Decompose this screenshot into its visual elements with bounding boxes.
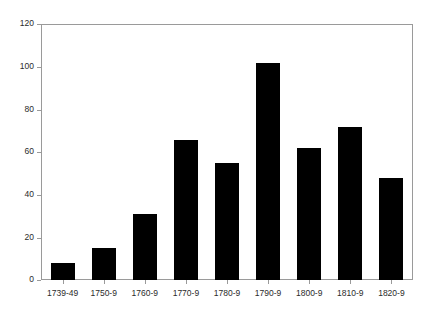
x-axis-tick-label: 1750-9 [90,288,116,298]
bar [51,263,75,280]
bar [338,127,362,280]
bar [297,148,321,280]
y-axis-tick-label: 120 [20,18,34,28]
y-axis: 120 100 80 60 40 20 0 [0,24,41,281]
x-axis-tick-mark [145,280,146,284]
bar-slot [42,25,83,280]
bar [215,163,239,280]
x-axis-tick-mark [350,280,351,284]
y-axis-tick-label: 40 [25,189,34,199]
bar-slot [165,25,206,280]
y-axis-tick-label: 80 [25,104,34,114]
bar [174,140,198,280]
x-axis-tick-label: 1760-9 [132,288,158,298]
x-axis-tick-mark [268,280,269,284]
bar-slot [83,25,124,280]
y-axis-tick-label: 60 [25,146,34,156]
x-axis-tick-label: 1739-49 [47,288,78,298]
x-axis-tick-mark [63,280,64,284]
bar-slot [371,25,412,280]
bar-slot [248,25,289,280]
x-axis-tick-label: 1780-9 [214,288,240,298]
y-axis-tick-label: 100 [20,61,34,71]
x-axis-tick-label: 1800-9 [296,288,322,298]
x-axis: 1739-49 1750-9 1760-9 1770-9 1780-9 1790… [42,280,412,310]
x-axis-tick-mark [186,280,187,284]
x-axis-tick-mark [104,280,105,284]
bar [256,63,280,280]
bar-slot [289,25,330,280]
bar [133,214,157,280]
bar-slot [206,25,247,280]
bar-slot [124,25,165,280]
y-axis-tick-label: 20 [25,232,34,242]
x-axis-tick-label: 1810-9 [337,288,363,298]
x-axis-tick-label: 1790-9 [255,288,281,298]
x-axis-tick-mark [227,280,228,284]
bars-layer [42,25,412,280]
x-axis-tick-label: 1770-9 [173,288,199,298]
x-axis-tick-mark [391,280,392,284]
y-axis-tick-label: 0 [29,274,34,284]
bar-chart: 120 100 80 60 40 20 0 [0,0,438,310]
x-axis-tick-label: 1820-9 [378,288,404,298]
bar-slot [330,25,371,280]
bar [379,178,403,280]
bar [92,248,116,280]
x-axis-tick-mark [309,280,310,284]
y-axis-tick-mark [37,280,41,281]
